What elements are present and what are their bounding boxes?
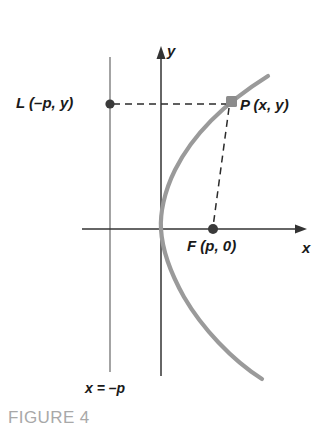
label-directrix-equation: x = –p [85, 381, 125, 395]
figure-caption: FIGURE 4 [8, 409, 90, 426]
parabola-diagram [0, 0, 328, 445]
label-point-l: L (–p, y) [16, 95, 73, 110]
figure-container: L (–p, y) P (x, y) F (p, 0) x = –p y x F… [0, 0, 328, 445]
y-axis-arrowhead-icon [157, 46, 166, 59]
dashed-segment-p-to-f [213, 108, 229, 227]
point-marker-l [105, 99, 114, 108]
label-point-p: P (x, y) [240, 97, 289, 112]
point-marker-f [208, 224, 218, 234]
point-marker-p [226, 96, 237, 107]
x-axis-arrowhead-icon [295, 225, 307, 234]
label-x-axis: x [302, 240, 310, 255]
label-y-axis: y [167, 43, 175, 58]
label-point-f: F (p, 0) [187, 238, 236, 253]
